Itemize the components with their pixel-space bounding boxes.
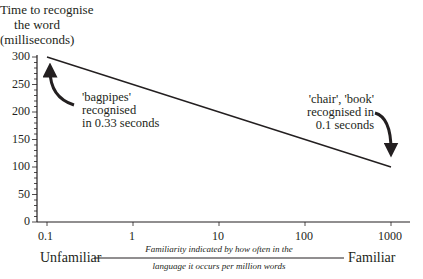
bagpipes-arrow-icon bbox=[50, 70, 74, 105]
y-tick-50: 50 bbox=[18, 187, 30, 202]
x-tick-1: 1 bbox=[129, 229, 135, 244]
x-tick-0-1: 0.1 bbox=[38, 229, 53, 244]
y-tick-0: 0 bbox=[24, 214, 30, 229]
y-title-line-3: (milliseconds) bbox=[0, 32, 74, 47]
bagpipes-annotation: 'bagpipes' recognised in 0.33 seconds bbox=[82, 91, 159, 130]
chair-book-annotation: 'chair', 'book' recognised in 0.1 second… bbox=[302, 93, 374, 132]
familiar-label: Familiar bbox=[348, 250, 395, 266]
y-tick-100: 100 bbox=[12, 159, 30, 174]
x-tick-100: 100 bbox=[295, 229, 313, 244]
x-tick-1000: 1000 bbox=[378, 229, 402, 244]
y-title-line-1: Time to recognise bbox=[0, 2, 74, 17]
y-title-line-2: the word bbox=[0, 17, 74, 32]
x-axis-title-line-1: Familiarity indicated by how often in th… bbox=[94, 244, 344, 254]
x-tick-10: 10 bbox=[212, 229, 224, 244]
chair-book-arrow-icon bbox=[375, 113, 391, 150]
x-ticks bbox=[47, 222, 391, 226]
y-tick-200: 200 bbox=[12, 104, 30, 119]
unfamiliar-label: Unfamiliar bbox=[40, 250, 101, 266]
y-minor-ticks bbox=[32, 57, 37, 222]
x-axis-title-line-2: language it occurs per million words bbox=[94, 261, 344, 271]
y-tick-250: 250 bbox=[12, 77, 30, 92]
annotation-line: in 0.33 seconds bbox=[82, 117, 159, 130]
annotation-line: 0.1 seconds bbox=[302, 119, 374, 132]
y-tick-150: 150 bbox=[12, 132, 30, 147]
y-axis-title: Time to recognise the word (milliseconds… bbox=[0, 2, 74, 47]
y-tick-300: 300 bbox=[12, 49, 30, 64]
